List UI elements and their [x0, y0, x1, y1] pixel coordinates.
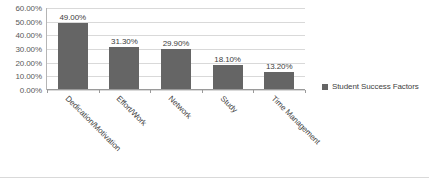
cat-slot: Study: [202, 92, 254, 172]
y-axis: 60.00% 50.00% 40.00% 30.00% 20.00% 10.00…: [0, 4, 44, 90]
gridline: [47, 90, 305, 91]
bar-value-label: 13.20%: [266, 62, 293, 71]
cat-slot: Time Management: [253, 92, 305, 172]
bar-slot: 29.90%: [150, 8, 202, 90]
y-axis-tick-label: 60.00%: [15, 4, 42, 13]
y-axis-tick-label: 20.00%: [15, 58, 42, 67]
bar-series: 49.00% 31.30% 29.90% 18.10% 13.20%: [47, 8, 305, 90]
bar[interactable]: [264, 72, 294, 90]
bar-value-label: 18.10%: [214, 55, 241, 64]
x-axis-tick-label: Time Management: [270, 94, 322, 146]
x-axis-category-labels: Dedication/Motivation Effort/Work Networ…: [47, 92, 305, 172]
cat-slot: Dedication/Motivation: [47, 92, 99, 172]
bar-value-label: 31.30%: [111, 37, 138, 46]
bar[interactable]: [109, 47, 139, 90]
x-axis-tick-label: Effort/Work: [115, 94, 149, 128]
legend-label: Student Success Factors: [332, 82, 419, 91]
bar-slot: 31.30%: [99, 8, 151, 90]
plot-area: 49.00% 31.30% 29.90% 18.10% 13.20%: [47, 8, 305, 90]
x-axis-tick-label: Network: [167, 94, 194, 121]
y-axis-tick-label: 50.00%: [15, 17, 42, 26]
bar[interactable]: [161, 49, 191, 90]
x-axis-line: [47, 89, 305, 90]
bar[interactable]: [213, 65, 243, 90]
x-axis-tickmark: [305, 90, 306, 93]
bar-slot: 49.00%: [47, 8, 99, 90]
bar-value-label: 29.90%: [163, 39, 190, 48]
cat-slot: Effort/Work: [99, 92, 151, 172]
y-axis-tick-label: 10.00%: [15, 72, 42, 81]
bar-slot: 13.20%: [253, 8, 305, 90]
bar[interactable]: [58, 23, 88, 90]
y-axis-tick-label: 30.00%: [15, 45, 42, 54]
bar-value-label: 49.00%: [60, 13, 87, 22]
bar-chart: 60.00% 50.00% 40.00% 30.00% 20.00% 10.00…: [0, 0, 429, 178]
y-axis-tick-label: 0.00%: [20, 86, 42, 95]
legend-swatch-icon: [322, 84, 328, 90]
cat-slot: Network: [150, 92, 202, 172]
bar-slot: 18.10%: [202, 8, 254, 90]
legend[interactable]: Student Success Factors: [322, 82, 419, 91]
y-axis-tick-label: 40.00%: [15, 31, 42, 40]
x-axis-tick-label: Study: [218, 94, 238, 114]
